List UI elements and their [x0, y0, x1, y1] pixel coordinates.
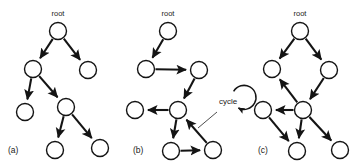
node-b-n5[interactable]: [163, 143, 180, 160]
node-a-n6[interactable]: [92, 140, 109, 157]
edge-c-n3-to-c-n1: [280, 79, 297, 102]
root-label-b: root: [162, 9, 176, 18]
panel-caption-a: (a): [8, 145, 19, 155]
edge-c-root-to-c-n2: [306, 39, 322, 60]
edge-a-n4-to-a-n6: [72, 114, 92, 138]
edge-b-n2-to-b-n3: [184, 78, 195, 98]
panel-caption-c: (c): [258, 145, 268, 155]
panel-caption-b: (b): [133, 145, 144, 155]
edge-a-n4-to-a-n5: [58, 116, 63, 137]
node-c-n6[interactable]: [332, 142, 349, 159]
edge-c-n3-to-c-n5: [299, 119, 302, 138]
node-c-root[interactable]: [292, 23, 309, 40]
edge-a-n1-to-a-n3: [27, 78, 31, 99]
node-a-n5[interactable]: [47, 142, 64, 159]
node-a-n2[interactable]: [80, 62, 97, 79]
edge-c-root-to-c-n1: [280, 39, 295, 59]
node-b-n6[interactable]: [205, 142, 222, 159]
edge-b-n1-to-b-n2: [156, 69, 187, 70]
edge-b-n3-to-b-n5: [173, 119, 176, 138]
edge-a-root-to-a-n1: [40, 39, 53, 58]
node-c-n3[interactable]: [295, 102, 312, 119]
edge-a-root-to-a-n2: [64, 39, 80, 60]
node-b-n4[interactable]: [127, 102, 144, 119]
node-a-n3[interactable]: [17, 104, 34, 121]
edge-a-n1-to-a-n4: [39, 76, 57, 97]
node-a-root[interactable]: [50, 23, 67, 40]
node-b-n1[interactable]: [138, 61, 155, 78]
graph-diagram-canvas: cycle root(a)root(b)root(c): [0, 0, 360, 168]
node-c-n5[interactable]: [289, 143, 306, 160]
figure-container: cycle root(a)root(b)root(c): [0, 0, 360, 168]
node-b-n2[interactable]: [191, 62, 208, 79]
node-a-n1[interactable]: [25, 61, 42, 78]
cycle-leader-line: [198, 112, 217, 128]
cycle-annotation-label: cycle: [219, 97, 238, 106]
node-c-n2[interactable]: [321, 62, 338, 79]
edges-layer: [27, 39, 331, 151]
node-c-n1[interactable]: [264, 61, 281, 78]
edge-c-n4-to-c-n5: [269, 117, 289, 141]
edge-c-n3-to-c-n6: [309, 117, 331, 141]
edge-b-root-to-b-n1: [152, 39, 163, 58]
node-b-n3[interactable]: [170, 102, 187, 119]
edge-c-n2-to-c-n3: [310, 78, 324, 99]
root-label-c: root: [294, 9, 308, 18]
node-c-n4[interactable]: [255, 102, 272, 119]
annotations-layer: cycle: [198, 85, 256, 128]
root-label-a: root: [52, 9, 66, 18]
node-a-n4[interactable]: [58, 99, 75, 116]
node-b-root[interactable]: [160, 23, 177, 40]
